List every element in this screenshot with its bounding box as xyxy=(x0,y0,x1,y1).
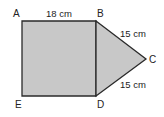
geometry-figure: A B C D E 18 cm 15 cm 15 cm xyxy=(0,0,164,117)
vertex-label-d: D xyxy=(97,99,104,110)
vertex-label-b: B xyxy=(97,8,104,19)
measure-ab: 18 cm xyxy=(46,8,72,19)
vertex-label-a: A xyxy=(13,8,20,19)
vertex-label-c: C xyxy=(149,54,156,65)
measure-dc: 15 cm xyxy=(120,79,146,90)
square-abde xyxy=(22,21,96,96)
vertex-label-e: E xyxy=(15,99,22,110)
measure-bc: 15 cm xyxy=(120,28,146,39)
